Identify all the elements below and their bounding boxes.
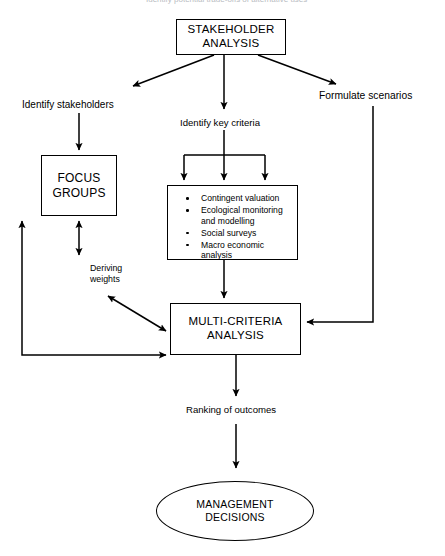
arrow-formulate-scenarios-to-mca [307,106,373,322]
node-management-decisions-line2: DECISIONS [205,511,265,524]
bullet-icon [186,197,189,200]
criteria-item-line1: Contingent valuation [201,193,279,203]
criteria-list-item[interactable]: Macro economic analysis [172,240,293,261]
arrow-mca-feedback-to-focus-groups [22,221,166,355]
bullet-icon [186,232,189,235]
arrow-stakeholder-to-identify-stakeholders [133,55,214,86]
node-criteria-list[interactable]: Contingent valuation Ecological monitori… [167,185,298,260]
label-formulate-scenarios: Formulate scenarios [319,90,412,101]
node-stakeholder-analysis-line1: STAKEHOLDER [188,23,275,37]
node-management-decisions[interactable]: MANAGEMENT DECISIONS [156,481,314,541]
bullet-icon [186,209,189,212]
page-header-partial: Identify potential trade-offs of alterna… [146,0,436,6]
node-focus-groups[interactable]: FOCUS GROUPS [41,155,117,216]
bullet-icon [186,244,189,247]
criteria-list-item[interactable]: Ecological monitoring and modelling [172,205,293,226]
node-focus-groups-line1: FOCUS [58,171,101,185]
label-deriving-weights: Deriving weights [90,263,122,284]
label-identify-key-criteria: Identify key criteria [180,117,260,128]
label-deriving-weights-line2: weights [90,274,122,285]
node-management-decisions-line1: MANAGEMENT [196,498,273,511]
arrow-weights-to-mca-bidirectional [108,296,166,331]
connector-layer [0,0,445,556]
criteria-item-line2: and modelling [201,216,293,227]
criteria-item-line2: analysis [201,250,293,261]
criteria-item-line1: Social surveys [201,228,256,238]
criteria-list: Contingent valuation Ecological monitori… [172,193,293,261]
criteria-item-line1: Ecological monitoring [201,205,283,215]
node-multi-criteria-analysis[interactable]: MULTI-CRITERIA ANALYSIS [170,303,301,355]
node-multi-criteria-analysis-line2: ANALYSIS [207,329,264,343]
criteria-list-item[interactable]: Contingent valuation [172,193,293,204]
arrow-stakeholder-to-formulate-scenarios [258,55,336,84]
page-header-text: Identify potential trade-offs of alterna… [146,0,436,4]
node-stakeholder-analysis-line2: ANALYSIS [203,37,260,51]
criteria-list-item[interactable]: Social surveys [172,228,293,239]
node-multi-criteria-analysis-line1: MULTI-CRITERIA [189,315,283,329]
node-stakeholder-analysis[interactable]: STAKEHOLDER ANALYSIS [176,19,286,55]
label-deriving-weights-line1: Deriving [90,263,122,274]
criteria-item-line1: Macro economic [201,240,264,250]
diagram-canvas: Identify potential trade-offs of alterna… [0,0,445,556]
label-identify-stakeholders: Identify stakeholders [22,99,114,110]
node-focus-groups-line2: GROUPS [52,186,105,200]
label-ranking-of-outcomes: Ranking of outcomes [186,404,276,415]
